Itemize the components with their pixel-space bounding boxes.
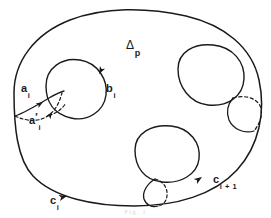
figure-root: Δp ai a′i bi ci ci + 1 Fig. 1 — [0, 0, 271, 218]
label-b-i-base: b — [106, 82, 113, 94]
handle-right-front — [228, 98, 254, 132]
label-a-i: ai — [21, 79, 30, 98]
label-c-i-base: c — [50, 194, 56, 206]
label-a-i-base: a — [21, 82, 27, 94]
label-c-i: ci — [50, 191, 59, 210]
label-c-i-plus-1-base: c — [213, 173, 219, 185]
arrowhead-c-i-plus-1 — [194, 174, 204, 184]
label-region-base: Δ — [126, 38, 134, 52]
handle-bottom-back — [155, 179, 167, 206]
label-region-subscript: p — [135, 48, 141, 58]
label-c-i-plus-1-subscript: i + 1 — [220, 182, 237, 191]
label-c-i-plus-1: ci + 1 — [213, 170, 237, 189]
label-a-prime-i-subscript: i — [38, 123, 41, 132]
handle-bottom-front — [144, 179, 158, 207]
label-a-prime-i-prime: ′ — [35, 112, 38, 123]
label-b-i-subscript: i — [113, 91, 116, 100]
handle-right-back — [233, 97, 261, 131]
label-a-prime-i: a′i — [29, 111, 41, 130]
label-b-i: bi — [106, 79, 116, 98]
label-region-delta-p: Δp — [126, 36, 140, 55]
hole-left — [46, 60, 106, 119]
hole-bottom — [135, 126, 199, 183]
figure-caption: Fig. 1 — [0, 208, 271, 217]
hole-right — [178, 45, 244, 106]
